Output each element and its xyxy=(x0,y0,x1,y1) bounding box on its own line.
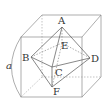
vertex-label-b: B xyxy=(22,52,29,63)
dimension-label-a: a xyxy=(6,60,12,71)
cube-edges xyxy=(21,15,101,97)
octahedron-edges xyxy=(31,27,90,87)
octahedron-hidden-edges xyxy=(31,27,90,87)
cube-octahedron-diagram: A E B D C F a xyxy=(0,0,111,108)
vertex-label-c: C xyxy=(55,67,63,78)
cube-hidden-edges xyxy=(21,15,101,97)
vertex-label-d: D xyxy=(91,53,99,64)
vertex-label-e: E xyxy=(61,40,68,51)
dimension-arc xyxy=(12,37,22,97)
vertex-label-f: F xyxy=(53,86,60,97)
vertex-label-a: A xyxy=(57,15,66,26)
